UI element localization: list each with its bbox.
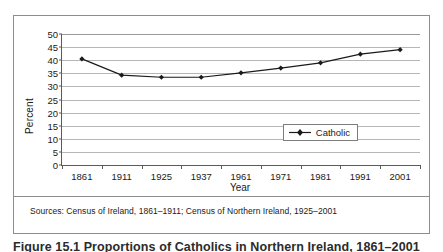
line-chart: Percent 05101520253035404550 18611911192…: [14, 16, 429, 196]
data-point-marker: [278, 65, 283, 70]
x-tick-mark: [221, 165, 222, 169]
x-tick-label: 1861: [71, 171, 92, 182]
data-point-marker: [398, 47, 403, 52]
y-tick-label: 0: [28, 160, 58, 171]
x-tick-mark: [380, 165, 381, 169]
x-tick-mark: [420, 165, 421, 169]
data-point-marker: [358, 52, 363, 57]
legend-entry-label: Catholic: [316, 127, 350, 138]
y-tick-label: 25: [28, 94, 58, 105]
x-tick-label: 2001: [390, 171, 411, 182]
x-tick-label: 1991: [350, 171, 371, 182]
source-divider: [14, 196, 429, 197]
data-point-marker: [238, 70, 243, 75]
x-tick-mark: [181, 165, 182, 169]
y-tick-label: 35: [28, 68, 58, 79]
figure-caption: Figure 15.1 Proportions of Catholics in …: [13, 240, 433, 252]
series-layer: [62, 34, 420, 165]
x-tick-mark: [142, 165, 143, 169]
x-tick-label: 1925: [151, 171, 172, 182]
data-point-marker: [79, 56, 84, 61]
y-tick-label: 15: [28, 120, 58, 131]
y-tick-label: 5: [28, 146, 58, 157]
y-tick-label: 20: [28, 107, 58, 118]
data-point-marker: [159, 75, 164, 80]
x-tick-mark: [261, 165, 262, 169]
figure-container: Percent 05101520253035404550 18611911192…: [13, 15, 430, 234]
data-point-marker: [119, 73, 124, 78]
y-tick-label: 10: [28, 133, 58, 144]
source-note: Sources: Census of Ireland, 1861–1911; C…: [30, 206, 419, 216]
x-tick-label: 1981: [310, 171, 331, 182]
x-tick-label: 1911: [111, 171, 131, 182]
chart-legend: Catholic: [283, 124, 358, 141]
x-tick-label: 1971: [270, 171, 291, 182]
data-point-marker: [318, 60, 323, 65]
x-tick-mark: [102, 165, 103, 169]
x-tick-label: 1937: [191, 171, 212, 182]
plot-inner: 05101520253035404550 1861191119251937196…: [62, 34, 420, 165]
x-tick-mark: [340, 165, 341, 169]
y-tick-label: 30: [28, 81, 58, 92]
x-tick-mark: [62, 165, 63, 169]
x-tick-label: 1961: [230, 171, 251, 182]
x-tick-mark: [301, 165, 302, 169]
y-tick-label: 50: [28, 29, 58, 40]
x-axis-title: Year: [61, 182, 419, 193]
y-tick-label: 45: [28, 42, 58, 53]
legend-line-marker-icon: [289, 128, 311, 137]
y-tick-label: 40: [28, 55, 58, 66]
plot-area: 05101520253035404550 1861191119251937196…: [61, 34, 420, 166]
data-point-marker: [199, 75, 204, 80]
